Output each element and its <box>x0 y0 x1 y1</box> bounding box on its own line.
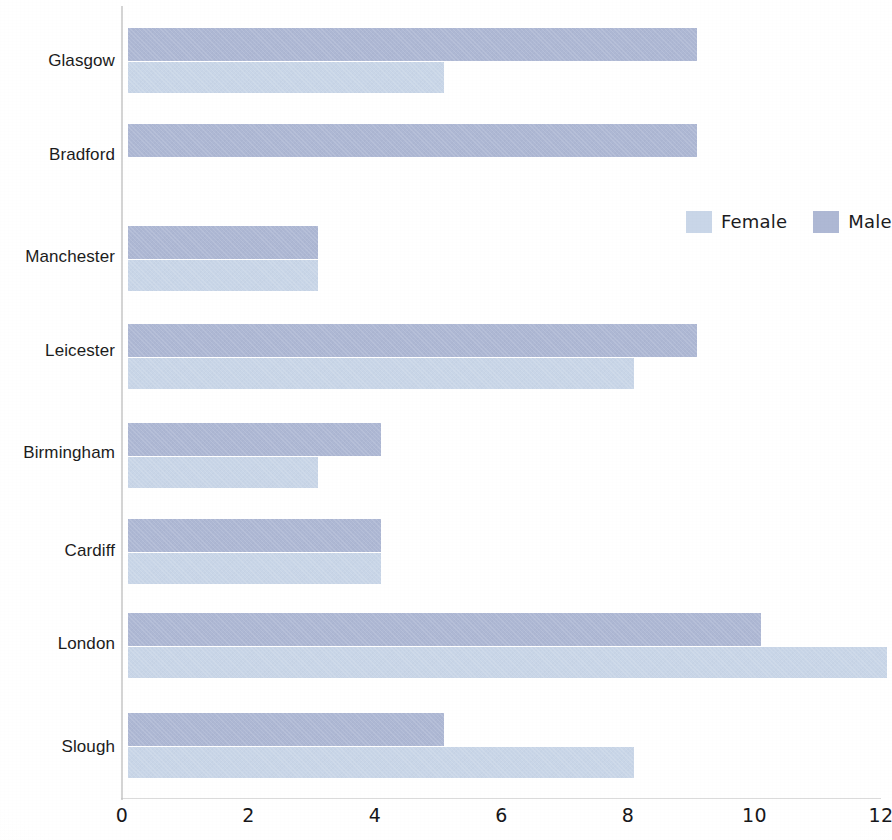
x-tick-2: 2 <box>242 806 255 825</box>
x-tick-8: 8 <box>622 806 635 825</box>
bar-male-glasgow <box>128 28 697 61</box>
category-label-london: London <box>58 635 115 652</box>
bar-male-bradford <box>128 124 697 157</box>
category-label-glasgow: Glasgow <box>48 52 115 69</box>
legend-label-male: Male <box>848 213 891 231</box>
bar-male-manchester <box>128 226 318 259</box>
bar-chart: Glasgow Bradford Manchester Leicester Bi… <box>0 0 892 840</box>
category-label-manchester: Manchester <box>25 248 115 265</box>
bar-male-london <box>128 613 761 646</box>
category-label-leicester: Leicester <box>45 342 115 359</box>
bar-female-birmingham <box>128 457 318 488</box>
bar-female-cardiff <box>128 553 381 584</box>
y-axis-line <box>121 6 123 800</box>
x-tick-4: 4 <box>369 806 382 825</box>
x-tick-0: 0 <box>116 806 129 825</box>
chart-legend: Female Male <box>686 211 892 233</box>
legend-swatch-female-icon <box>686 211 712 233</box>
bar-female-manchester <box>128 260 318 291</box>
x-axis-line <box>121 798 881 799</box>
x-tick-12: 12 <box>868 806 892 825</box>
chart-page: Glasgow Bradford Manchester Leicester Bi… <box>0 0 892 840</box>
bar-male-leicester <box>128 324 697 357</box>
category-label-cardiff: Cardiff <box>65 542 115 559</box>
legend-label-female: Female <box>721 213 787 231</box>
bar-male-birmingham <box>128 423 381 456</box>
legend-item-male: Male <box>813 211 891 233</box>
category-label-birmingham: Birmingham <box>23 444 115 461</box>
bar-male-slough <box>128 713 444 746</box>
legend-swatch-male-icon <box>813 211 839 233</box>
bar-male-cardiff <box>128 519 381 552</box>
x-tick-6: 6 <box>495 806 508 825</box>
bar-female-slough <box>128 747 634 778</box>
bar-female-london <box>128 647 887 678</box>
legend-item-female: Female <box>686 211 787 233</box>
bar-female-leicester <box>128 358 634 389</box>
category-label-bradford: Bradford <box>49 146 115 163</box>
x-tick-10: 10 <box>742 806 767 825</box>
bar-female-glasgow <box>128 62 444 93</box>
category-label-slough: Slough <box>61 738 115 755</box>
